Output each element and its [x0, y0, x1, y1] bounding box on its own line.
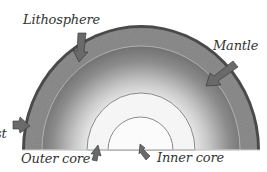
outer-core-label: Outer core — [21, 152, 90, 165]
mantle-label: Mantle — [213, 39, 258, 52]
inner-core-label: Inner core — [157, 151, 224, 164]
lithosphere-label: Lithosphere — [23, 13, 100, 26]
crust-label: Crust — [0, 127, 6, 140]
